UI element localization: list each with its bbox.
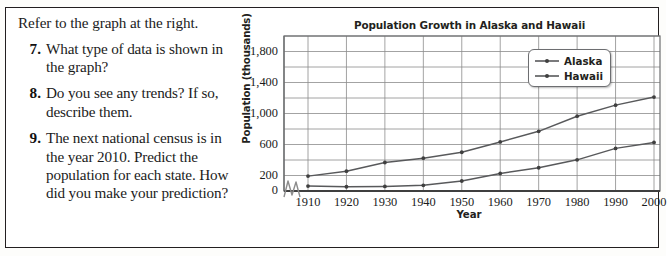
- chart-x-tick: 1940: [403, 195, 443, 210]
- chart-x-tick: 1960: [480, 195, 520, 210]
- chart-y-tick: 1,000: [236, 106, 278, 121]
- question-text-9: The next national census is in the year …: [46, 129, 230, 203]
- question-column: Refer to the graph at the right. 7. What…: [18, 14, 230, 211]
- question-number-8: 8.: [18, 84, 46, 121]
- chart-x-tick: 2000: [634, 195, 671, 210]
- question-item-8: 8. Do you see any trends? If so, describ…: [18, 84, 230, 121]
- legend-label: Hawaii: [560, 70, 603, 82]
- question-text-8: Do you see any trends? If so, describe t…: [46, 84, 230, 121]
- chart-x-tick: 1950: [442, 195, 482, 210]
- chart-x-tick: 1920: [326, 195, 366, 210]
- legend-item-alaska[interactable]: Alaska: [529, 53, 610, 68]
- chart-x-tick: 1970: [519, 195, 559, 210]
- question-text-7: What type of data is shown in the graph?: [46, 40, 230, 77]
- chart-plot-svg: [224, 11, 664, 246]
- legend-line-marker-icon: [534, 70, 560, 82]
- chart-x-tick: 1980: [557, 195, 597, 210]
- chart-y-tick: 200: [236, 168, 278, 183]
- chart-legend: AlaskaHawaii: [528, 49, 611, 87]
- population-line-chart: Population Growth in Alaska and Hawaii P…: [224, 11, 664, 246]
- chart-x-tick: 1990: [596, 195, 636, 210]
- chart-y-tick: 0: [236, 183, 278, 198]
- chart-y-tick: 600: [236, 137, 278, 152]
- legend-label: Alaska: [560, 55, 602, 67]
- chart-x-tick: 1930: [365, 195, 405, 210]
- question-item-9: 9. The next national census is in the ye…: [18, 129, 230, 203]
- intro-text: Refer to the graph at the right.: [18, 14, 230, 33]
- question-list: 7. What type of data is shown in the gra…: [18, 40, 230, 203]
- legend-item-hawaii[interactable]: Hawaii: [529, 68, 610, 83]
- chart-y-tick: 1,800: [236, 44, 278, 59]
- worksheet-frame: Refer to the graph at the right. 7. What…: [5, 7, 659, 248]
- question-number-7: 7.: [18, 40, 46, 77]
- question-number-9: 9.: [18, 129, 46, 203]
- chart-y-tick: 1,400: [236, 75, 278, 90]
- chart-x-tick: 1910: [288, 195, 328, 210]
- legend-line-marker-icon: [534, 55, 560, 67]
- question-item-7: 7. What type of data is shown in the gra…: [18, 40, 230, 77]
